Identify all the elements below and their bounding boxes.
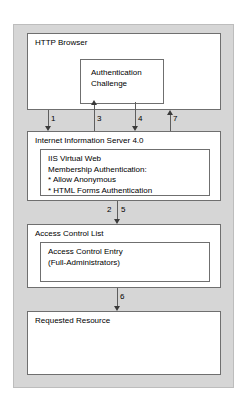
arrow-6-line [117,288,118,308]
arrow-3-label: 3 [97,114,101,123]
arrow-4-line [135,102,136,129]
node-internet-information-server[interactable]: Internet Information Server 4.0 IIS Virt… [27,131,221,201]
arrow-2-label: 2 [107,205,111,214]
arrow-6-label: 6 [120,292,124,301]
arrow-2-5-line [117,201,118,221]
arrow-4-head-down-icon [132,126,138,131]
diagram-canvas: HTTP Browser Authentication Challenge In… [0,0,248,417]
arrow-3-line [94,104,95,131]
arrow-7-label: 7 [173,114,177,123]
node-http-browser[interactable]: HTTP Browser Authentication Challenge [27,33,221,110]
arrow-3-head-up-icon [91,100,97,105]
arrow-2-5-head-down-icon [114,219,120,224]
node-authentication-challenge-label: Authentication Challenge [91,68,142,89]
node-http-browser-label: HTTP Browser [35,38,87,48]
node-authentication-challenge[interactable]: Authentication Challenge [80,59,164,104]
arrow-5-label: 5 [121,205,125,214]
arrow-4-label: 4 [138,114,142,123]
arrow-7-line [170,115,171,131]
arrow-1-head-down-icon [45,126,51,131]
node-internet-information-server-label: Internet Information Server 4.0 [35,136,144,146]
node-iis-virtual-web-details-label: IIS Virtual Web Membership Authenticatio… [48,154,152,196]
node-iis-virtual-web-details[interactable]: IIS Virtual Web Membership Authenticatio… [40,149,210,196]
node-requested-resource[interactable]: Requested Resource [27,311,221,375]
arrow-7-head-up-icon [167,110,173,115]
node-requested-resource-label: Requested Resource [35,316,110,326]
node-access-control-entry-label: Access Control Entry (Full-Administrator… [48,247,123,268]
node-access-control-list-label: Access Control List [35,229,103,239]
arrow-6-head-down-icon [114,306,120,311]
node-access-control-list[interactable]: Access Control List Access Control Entry… [27,224,221,288]
node-access-control-entry[interactable]: Access Control Entry (Full-Administrator… [40,242,210,282]
arrow-1-label: 1 [51,114,55,123]
